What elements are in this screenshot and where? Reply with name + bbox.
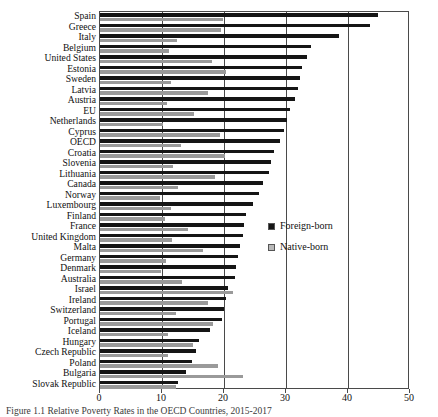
category-label: Norway — [0, 190, 96, 200]
bar-native-born — [100, 102, 167, 106]
bar-foreign-born — [100, 118, 287, 122]
x-tick-label-30: 30 — [280, 392, 290, 404]
bar-native-born — [100, 354, 168, 358]
bar-row — [100, 327, 408, 338]
x-axis-tick-labels: 01020304050 — [0, 392, 438, 406]
bar-row — [100, 107, 408, 118]
bar-foreign-born — [100, 276, 235, 280]
bar-row — [100, 54, 408, 65]
bar-row — [100, 180, 408, 191]
bar-native-born — [100, 165, 173, 169]
bar-row — [100, 33, 408, 44]
bar-foreign-born — [100, 286, 228, 290]
category-label: Italy — [0, 32, 96, 42]
x-tick-label-10: 10 — [156, 392, 166, 404]
bar-native-born — [100, 217, 165, 221]
bar-row — [100, 243, 408, 254]
bar-foreign-born — [100, 87, 298, 91]
bar-native-born — [100, 112, 194, 116]
bar-row — [100, 317, 408, 328]
category-label: Poland — [0, 358, 96, 368]
x-tick-label-50: 50 — [404, 392, 414, 404]
bar-foreign-born — [100, 108, 290, 112]
x-tick-label-40: 40 — [342, 392, 352, 404]
bar-foreign-born — [100, 129, 284, 133]
bar-foreign-born — [100, 328, 210, 332]
legend-label: Native-born — [280, 241, 328, 253]
bar-foreign-born — [100, 181, 263, 185]
legend-item-native: Native-born — [268, 241, 333, 253]
bar-native-born — [100, 175, 215, 179]
bar-row — [100, 264, 408, 275]
bar-foreign-born — [100, 150, 274, 154]
category-label: Switzerland — [0, 305, 96, 315]
bar-native-born — [100, 270, 161, 274]
bar-native-born — [100, 154, 225, 158]
bar-foreign-born — [100, 24, 370, 28]
category-label: Germany — [0, 253, 96, 263]
bar-native-born — [100, 280, 182, 284]
chart-legend: Foreign-bornNative-born — [268, 220, 333, 262]
category-label: Cyprus — [0, 127, 96, 137]
bar-row — [100, 75, 408, 86]
bar-native-born — [100, 312, 176, 316]
bar-native-born — [100, 60, 212, 64]
category-label: Portugal — [0, 316, 96, 326]
bar-native-born — [100, 259, 166, 263]
category-label: France — [0, 221, 96, 231]
bar-native-born — [100, 49, 169, 53]
bar-foreign-born — [100, 234, 243, 238]
bar-row — [100, 170, 408, 181]
bar-row — [100, 222, 408, 233]
category-label: Spain — [0, 11, 96, 21]
bar-foreign-born — [100, 192, 259, 196]
category-label: Finland — [0, 211, 96, 221]
bar-foreign-born — [100, 171, 269, 175]
category-label: Belgium — [0, 43, 96, 53]
bar-foreign-born — [100, 349, 196, 353]
bar-native-born — [100, 133, 220, 137]
bar-row — [100, 86, 408, 97]
category-label: Netherlands — [0, 116, 96, 126]
bar-native-born — [100, 322, 213, 326]
category-label: United States — [0, 53, 96, 63]
bar-native-born — [100, 186, 178, 190]
bar-native-born — [100, 343, 193, 347]
bar-row — [100, 12, 408, 23]
bar-foreign-born — [100, 255, 238, 259]
bar-foreign-born — [100, 307, 224, 311]
bar-native-born — [100, 91, 208, 95]
bar-foreign-born — [100, 202, 253, 206]
bar-row — [100, 191, 408, 202]
category-label: OECD — [0, 137, 96, 147]
x-tick-label-20: 20 — [218, 392, 228, 404]
category-label: Lithuania — [0, 169, 96, 179]
category-axis-labels: SpainGreeceItalyBelgiumUnited StatesEsto… — [0, 11, 96, 389]
bar-native-born — [100, 196, 160, 200]
bar-foreign-born — [100, 360, 192, 364]
bar-row — [100, 233, 408, 244]
bar-native-born — [100, 39, 177, 43]
bar-native-born — [100, 291, 233, 295]
category-label: Sweden — [0, 74, 96, 84]
bar-native-born — [100, 144, 181, 148]
category-label: EU — [0, 106, 96, 116]
bar-foreign-born — [100, 66, 302, 70]
bar-foreign-born — [100, 339, 199, 343]
bar-row — [100, 275, 408, 286]
bar-native-born — [100, 18, 223, 22]
bar-row — [100, 338, 408, 349]
category-label: Denmark — [0, 263, 96, 273]
bar-foreign-born — [100, 381, 178, 385]
category-label: Slovak Republic — [0, 379, 96, 389]
legend-swatch-icon — [268, 223, 275, 230]
bar-foreign-born — [100, 265, 236, 269]
bar-native-born — [100, 70, 226, 74]
bar-row — [100, 117, 408, 128]
bar-native-born — [100, 81, 171, 85]
bar-row — [100, 23, 408, 34]
bar-row — [100, 96, 408, 107]
category-label: United Kingdom — [0, 232, 96, 242]
category-label: Austria — [0, 95, 96, 105]
